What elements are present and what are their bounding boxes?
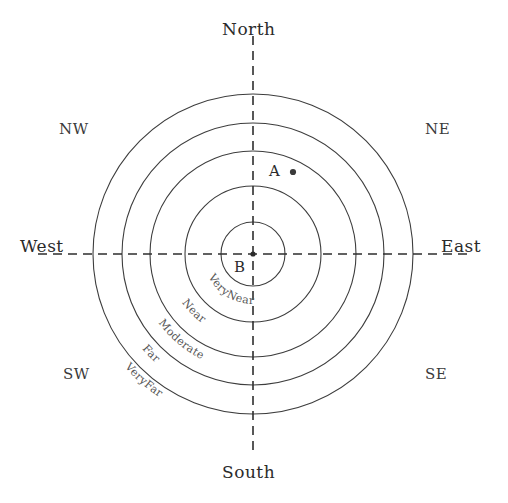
center-point-dot [250, 251, 255, 256]
quadrant-label-nw: NW [59, 122, 89, 137]
cardinal-label-east: East [441, 238, 481, 255]
point-label-b: B [234, 260, 245, 275]
quadrant-label-sw: SW [63, 367, 90, 382]
ring-label-group: VeryNear Near Moderate Far VeryF [122, 271, 255, 400]
point-label-a: A [269, 164, 280, 179]
cardinal-label-west: West [20, 238, 64, 255]
cardinal-label-south: South [222, 464, 275, 481]
cardinal-label-north: North [222, 21, 276, 38]
point-a-marker-dot [290, 169, 296, 175]
axis-group [38, 36, 470, 452]
quadrant-label-se: SE [425, 367, 447, 382]
ring-label-veryfar-text: VeryFar [122, 360, 166, 400]
polar-diagram-svg: VeryNear Near Moderate Far VeryF [0, 0, 508, 503]
ring-label-veryfar: VeryFar [122, 360, 166, 400]
quadrant-label-ne: NE [425, 122, 450, 137]
diagram-canvas: VeryNear Near Moderate Far VeryF [0, 0, 508, 503]
